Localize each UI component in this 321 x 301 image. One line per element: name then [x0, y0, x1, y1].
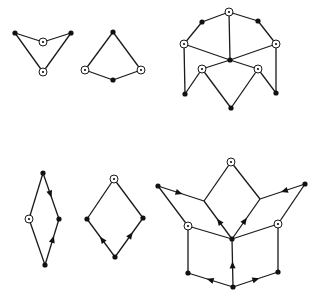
vertex-dot-icon	[182, 91, 187, 96]
arrowhead-icon	[46, 190, 54, 199]
vertex-dot-icon	[68, 30, 73, 35]
arrowhead-icon	[240, 216, 249, 225]
vertex-circled-center	[201, 68, 203, 70]
edge	[29, 219, 45, 265]
edge	[114, 179, 143, 218]
edge	[185, 69, 202, 94]
edge	[158, 186, 188, 226]
vertex-dot-icon	[230, 284, 235, 289]
vertex-circled-center	[187, 225, 189, 227]
vertex-dot-icon	[84, 216, 89, 221]
arrowhead-icon	[280, 187, 289, 195]
graph-figure	[0, 0, 321, 301]
vertex-circled-center	[28, 218, 30, 220]
vertex-circled-center	[113, 178, 115, 180]
vertex-dot-icon	[112, 254, 117, 259]
vertex-dot-icon	[255, 18, 260, 23]
edge	[231, 162, 260, 199]
graph-g3	[180, 8, 280, 111]
edge	[229, 12, 230, 60]
edge	[204, 162, 231, 201]
vertex-dot-icon	[42, 262, 47, 267]
edge	[258, 69, 276, 93]
vertex-dot-icon	[140, 215, 145, 220]
arrowhead-icon	[126, 231, 135, 240]
vertex-circled-center	[275, 43, 277, 45]
vertex-dot-icon	[155, 183, 160, 188]
vertex-circled-center	[257, 68, 259, 70]
arrowhead-icon	[252, 275, 261, 283]
vertex-circled-center	[84, 69, 86, 71]
vertex-dot-icon	[273, 90, 278, 95]
vertex-circled-center	[42, 71, 44, 73]
vertex-dot-icon	[110, 29, 115, 34]
edge	[229, 12, 258, 21]
vertex-dot-icon	[229, 236, 234, 241]
vertex-circled-center	[230, 161, 232, 163]
edge	[278, 184, 305, 224]
graph-g5	[84, 175, 145, 260]
vertex-dot-icon	[40, 170, 45, 175]
vertex-circled-center	[228, 11, 230, 13]
vertex-circled-center	[42, 41, 44, 43]
vertex-dot-icon	[228, 105, 233, 110]
vertex-dot-icon	[227, 57, 232, 62]
arrowhead-icon	[229, 261, 235, 268]
edge	[232, 224, 278, 239]
vertex-dot-icon	[56, 216, 61, 221]
vertex-dot-icon	[302, 181, 307, 186]
graph-g6	[155, 158, 307, 290]
vertex-dot-icon	[110, 77, 115, 82]
vertex-dot-icon	[275, 269, 280, 274]
vertex-dot-icon	[12, 30, 17, 35]
arrowhead-icon	[49, 235, 57, 243]
edge	[113, 32, 141, 70]
edge	[85, 32, 113, 70]
arrowhead-icon	[175, 189, 184, 197]
edge	[15, 33, 43, 72]
graph-g1	[12, 30, 73, 76]
vertex-circled-center	[277, 223, 279, 225]
edge	[188, 226, 232, 239]
graph-g2	[81, 29, 145, 82]
arrowhead-icon	[206, 276, 214, 284]
edge	[43, 33, 71, 72]
edge	[87, 179, 114, 219]
edge	[202, 69, 231, 108]
edge	[184, 44, 185, 94]
vertex-circled-center	[140, 69, 142, 71]
edge	[184, 44, 230, 60]
graph-g4	[25, 170, 62, 267]
edge	[231, 69, 258, 108]
edge	[29, 173, 43, 219]
vertex-dot-icon	[185, 270, 190, 275]
vertex-circled-center	[183, 43, 185, 45]
vertex-dot-icon	[199, 19, 204, 24]
edge	[230, 44, 276, 60]
